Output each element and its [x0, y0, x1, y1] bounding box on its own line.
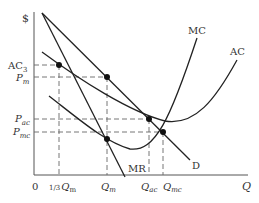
point-pm [104, 74, 110, 80]
point-mc-d [160, 129, 166, 135]
dashed-guides [34, 65, 163, 175]
demand-curve [42, 13, 190, 160]
y-axis-label: $ [22, 12, 29, 25]
pm-label: Pm [15, 72, 30, 86]
d-label: D [192, 160, 200, 171]
marginal-revenue-curve [42, 13, 125, 177]
monopoly-cost-diagram: $ Q 0 MC AC D MR AC3 Pm Pac Pmc 1/3Qm Qm… [0, 0, 259, 203]
x-axis-label: Q [242, 180, 251, 193]
qmc-label: Qmc [163, 181, 182, 194]
qm-label: Qm [101, 181, 116, 194]
origin-label: 0 [32, 181, 38, 192]
pmc-label: Pmc [12, 126, 30, 140]
average-cost-curve [42, 52, 237, 122]
point-third-qm [56, 62, 62, 68]
pac-label: Pac [14, 113, 30, 127]
point-mc-mr [104, 136, 110, 142]
qac-label: Qac [141, 181, 157, 194]
mc-label: MC [188, 25, 206, 36]
mr-label: MR [128, 163, 146, 174]
third-qm-label: 1/3Qm [49, 181, 76, 194]
point-ac-d [146, 116, 152, 122]
ac-label: AC [229, 46, 245, 57]
